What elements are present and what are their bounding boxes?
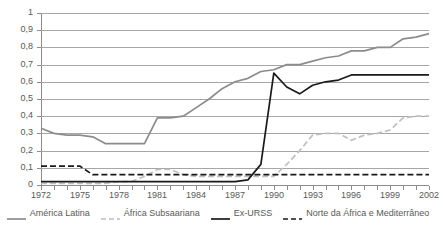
legend-item[interactable]: Norte da África e Mediterrâneo [283, 208, 429, 218]
solid-line-swatch-icon [7, 209, 26, 217]
y-axis-tick-label: 0,6 [3, 77, 33, 86]
x-axis-tick-label: 1990 [257, 190, 291, 200]
legend-item[interactable]: África Subsaariana [101, 208, 200, 218]
legend-item[interactable]: Ex-URSS [211, 208, 273, 218]
y-axis-tick-label: 0,5 [3, 94, 33, 103]
y-axis-tick-mark [37, 151, 41, 152]
x-axis-tick-label: 1993 [296, 190, 330, 200]
y-axis-tick-label: 0,1 [3, 163, 33, 172]
y-axis-tick-label: 0,3 [3, 128, 33, 137]
x-axis-tick-label: 1999 [373, 190, 407, 200]
gridline [41, 168, 429, 169]
gridline [41, 99, 429, 100]
y-axis-tick-mark [37, 13, 41, 14]
x-axis-tick-label: 1975 [63, 190, 97, 200]
legend-item-label: África Subsaariana [124, 208, 200, 218]
x-axis-tick-label: 1981 [140, 190, 174, 200]
y-axis-tick-mark [37, 133, 41, 134]
x-axis-tick-label: 1996 [334, 190, 368, 200]
gridline [41, 47, 429, 48]
gridline [41, 116, 429, 117]
x-axis-tick-label: 1984 [179, 190, 213, 200]
legend-item-label: América Latina [30, 208, 90, 218]
x-axis-tick-label: 1987 [218, 190, 252, 200]
y-axis-tick-mark [37, 99, 41, 100]
y-axis-tick-label: 0,9 [3, 25, 33, 34]
x-axis-tick-label: 1978 [102, 190, 136, 200]
gridline [41, 30, 429, 31]
legend-item-label: Ex-URSS [234, 208, 273, 218]
solid-line-swatch-icon [211, 209, 230, 217]
legend-item-label: Norte da África e Mediterrâneo [306, 208, 429, 218]
y-axis-tick-label: 0,8 [3, 42, 33, 51]
dashed-line-swatch-icon [101, 209, 120, 217]
y-axis-tick-mark [37, 47, 41, 48]
y-axis-tick-label: 0,7 [3, 60, 33, 69]
legend-item[interactable]: América Latina [7, 208, 90, 218]
dashed-line-swatch-icon [283, 209, 302, 217]
y-axis-tick-mark [37, 82, 41, 83]
y-axis-tick-label: 0 [3, 180, 33, 189]
y-axis-tick-mark [37, 65, 41, 66]
y-axis-tick-mark [37, 168, 41, 169]
x-axis-tick-label: 2002 [412, 190, 444, 200]
gridline [41, 65, 429, 66]
y-axis-tick-label: 0,2 [3, 146, 33, 155]
y-axis-tick-label: 1 [3, 8, 33, 17]
x-axis-tick-label: 1972 [24, 190, 58, 200]
gridline [41, 82, 429, 83]
chart-legend: América LatinaÁfrica SubsaarianaEx-URSSN… [0, 203, 436, 223]
gridline [41, 133, 429, 134]
gridline [41, 151, 429, 152]
y-axis-tick-mark [37, 30, 41, 31]
y-axis-tick-label: 0,4 [3, 111, 33, 120]
gridline [41, 13, 429, 14]
y-axis-tick-mark [37, 116, 41, 117]
